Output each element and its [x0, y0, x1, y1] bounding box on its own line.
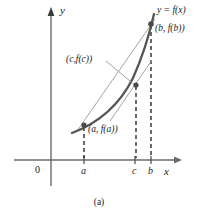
point-a-label: (a, f(a)) [88, 125, 118, 135]
figure-caption: (a) [0, 197, 198, 207]
y-axis [48, 7, 55, 186]
point-a-marker [81, 122, 86, 127]
dashed-drop-lines [84, 25, 151, 158]
x-tick-label-c: c [132, 166, 136, 176]
function-curve [72, 14, 154, 133]
origin-label: 0 [35, 165, 40, 175]
point-c-marker [133, 82, 138, 87]
x-tick-label-a: a [81, 166, 86, 176]
point-b-marker [148, 21, 154, 27]
curve-points [81, 21, 153, 127]
x-axis-label: x [164, 166, 169, 177]
x-axis [14, 156, 182, 163]
curve-equation-label: y = f(x) [157, 6, 186, 16]
figure-container: y x 0 a c b y = f(x) (b, f(b)) (c,f(c)) … [0, 0, 198, 219]
point-c-label: (c,f(c)) [66, 55, 92, 65]
y-axis-label: y [60, 5, 65, 16]
point-b-label: (b, f(b)) [155, 24, 185, 34]
x-tick-label-b: b [148, 166, 153, 176]
secant-line [77, 19, 155, 131]
